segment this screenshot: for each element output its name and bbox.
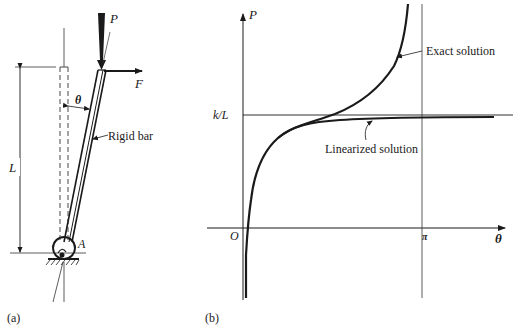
exact-solution-label: Exact solution (426, 44, 495, 58)
angle-theta-label: θ (75, 93, 82, 107)
pivot-a-label: A (77, 237, 86, 251)
p-axis-label: P (248, 7, 257, 22)
origin-label: O (230, 229, 239, 243)
rigid-bar (64, 70, 106, 242)
pi-label: π (422, 231, 428, 242)
figure-a-caption: (a) (7, 311, 20, 325)
load-p-arrow-icon (97, 13, 106, 70)
linearized-solution-label: Linearized solution (325, 142, 418, 156)
figure-a-rigid-bar-model: P F θ Rigid bar L (7, 11, 153, 325)
linearized-solution-curve (278, 117, 494, 138)
figure-b-caption: (b) (205, 311, 219, 325)
force-f-label: F (134, 76, 144, 91)
undeflected-bar-dashed (60, 67, 68, 240)
load-p-label: P (109, 11, 118, 26)
load-p-leader (103, 32, 110, 63)
buckling-diagram: P F θ Rigid bar L (0, 0, 519, 335)
pivot-support (46, 237, 79, 302)
rigid-bar-label: Rigid bar (108, 129, 153, 143)
exact-solution-leader (397, 51, 422, 57)
linearized-solution-leader (365, 121, 372, 140)
rigid-bar-leader (93, 135, 108, 139)
k-over-l-label: k/L (213, 108, 229, 122)
length-l-label: L (8, 160, 16, 175)
figure-b-load-deflection-plot: P θ O k/L π Exact solution Linearized so… (205, 4, 513, 325)
theta-axis-label: θ (495, 231, 502, 246)
